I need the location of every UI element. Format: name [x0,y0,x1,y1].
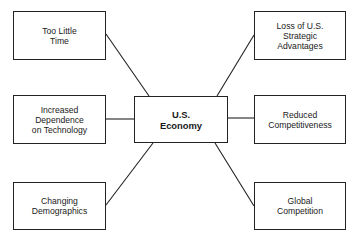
node-label: Global Competition [277,196,323,216]
edge-loss-strategic-advantages [217,35,254,96]
node-label: Changing Demographics [32,196,87,216]
edge-global-competition [215,143,254,206]
node-loss-of-strategic-advantages: Loss of U.S. Strategic Advantages [254,11,346,60]
node-label: Too Little Time [42,26,76,46]
node-label: Loss of U.S. Strategic Advantages [277,21,324,51]
node-label: U.S. Economy [160,109,202,131]
node-changing-demographics: Changing Demographics [13,182,106,230]
edge-too-little-time [106,34,149,96]
node-label: Reduced Competitiveness [268,110,332,130]
node-reduced-competitiveness: Reduced Competitiveness [254,95,346,144]
edge-changing-demographics [106,143,153,205]
node-too-little-time: Too Little Time [13,11,106,60]
node-us-economy: U.S. Economy [134,96,228,143]
node-label: Increased Dependence on Technology [16,105,103,135]
node-increased-dependence-on-technology: Increased Dependence on Technology [13,95,106,144]
node-global-competition: Global Competition [254,182,346,230]
